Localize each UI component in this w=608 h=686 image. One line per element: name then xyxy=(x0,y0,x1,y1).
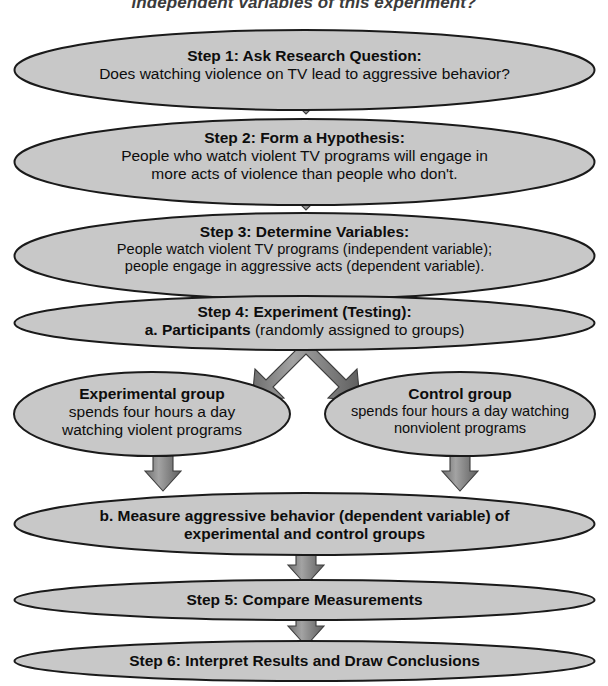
node-step4[interactable] xyxy=(15,296,595,350)
node-control-group[interactable] xyxy=(325,372,595,456)
node-step1[interactable] xyxy=(15,30,595,110)
flowchart-canvas: independent variables of this experiment… xyxy=(0,0,608,686)
node-measure[interactable] xyxy=(15,493,595,555)
node-experimental-group[interactable] xyxy=(14,372,290,456)
node-step6[interactable] xyxy=(15,641,595,681)
flowchart-graphics xyxy=(0,0,608,686)
node-step3[interactable] xyxy=(15,213,595,299)
node-step2[interactable] xyxy=(15,119,595,205)
node-step5[interactable] xyxy=(15,580,595,620)
